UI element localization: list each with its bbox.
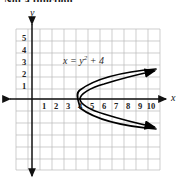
graph-figure bbox=[0, 0, 180, 187]
x-tick-4: 4 bbox=[74, 101, 86, 111]
equation-annotation: x = y2 + 4 bbox=[63, 54, 104, 66]
equation-equals: = bbox=[70, 55, 77, 66]
x-tick-1: 1 bbox=[38, 101, 50, 111]
x-tick-8: 8 bbox=[122, 101, 134, 111]
equation-exponent: 2 bbox=[84, 54, 88, 62]
y-tick-3: 3 bbox=[18, 57, 30, 67]
y-tick-2: 2 bbox=[18, 69, 30, 79]
x-tick-2: 2 bbox=[50, 101, 62, 111]
x-tick-6: 6 bbox=[98, 101, 110, 111]
x-tick-10: 10 bbox=[145, 101, 157, 111]
equation-lhs: x bbox=[63, 55, 67, 66]
equation-plus: + bbox=[90, 55, 97, 66]
equation-constant: 4 bbox=[99, 55, 104, 66]
y-tick-4: 4 bbox=[18, 45, 30, 55]
y-tick-5: 5 bbox=[18, 33, 30, 43]
x-tick-3: 3 bbox=[62, 101, 74, 111]
x-axis-label: x bbox=[171, 92, 175, 103]
y-axis-label: y bbox=[30, 7, 34, 18]
x-tick-5: 5 bbox=[86, 101, 98, 111]
x-tick-7: 7 bbox=[110, 101, 122, 111]
y-tick-1: 1 bbox=[18, 81, 30, 91]
